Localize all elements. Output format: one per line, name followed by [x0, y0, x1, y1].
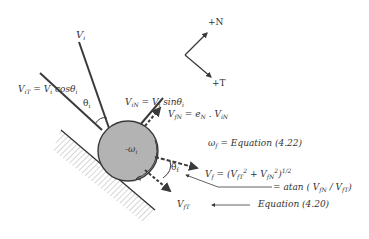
final-normal-equation: VfN = eN . ViN — [168, 109, 229, 121]
final-velocity-equation: Vf = (VfT2 + VfN2)1/2 — [205, 167, 292, 181]
incident-angle-label: θi — [83, 98, 90, 109]
final-tangential-label: VfT — [177, 199, 191, 211]
final-tangential-equation: Equation (4.20) — [257, 199, 330, 209]
final-angle-equation: = atan ( VfN / VfT) — [273, 182, 352, 194]
axes-indicator: +N +T — [185, 17, 226, 88]
incident-velocity-label: Vi — [76, 29, 85, 41]
impact-diagram: +N +T -ωi Vi ViT = Vi cosθi θi ViN = Vi … — [0, 0, 369, 239]
incident-tangential-equation: ViT = Vi cosθi — [18, 84, 77, 95]
final-spin-equation: ωf = Equation (4.22) — [208, 138, 302, 150]
incident-normal-equation: ViN = Vi sinθi — [125, 97, 184, 108]
final-angle-arc — [163, 161, 171, 178]
normal-axis-label: +N — [208, 17, 224, 27]
tangent-axis-label: +T — [212, 78, 226, 88]
